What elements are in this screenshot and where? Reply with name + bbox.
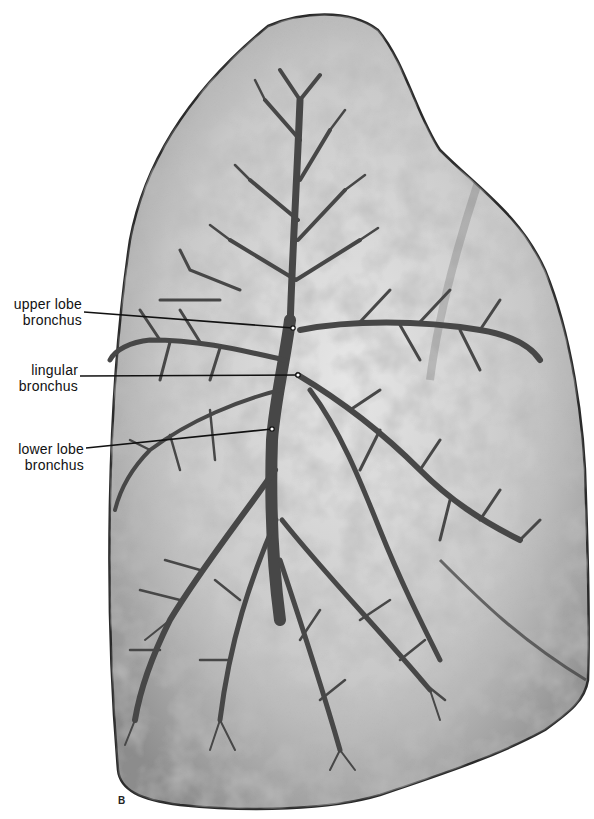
pointer-dot-lingular — [296, 373, 300, 377]
label-line: bronchus — [10, 457, 84, 473]
panel-letter: B — [118, 795, 125, 806]
leader-lingular — [80, 375, 298, 376]
label-line: bronchus — [10, 312, 82, 328]
label-lower-lobe-bronchus: lower lobe bronchus — [10, 441, 84, 473]
label-line: lingular — [10, 362, 78, 378]
label-line: lower lobe — [10, 441, 84, 457]
label-line: bronchus — [10, 378, 78, 394]
label-lingular-bronchus: lingular bronchus — [10, 362, 78, 394]
label-upper-lobe-bronchus: upper lobe bronchus — [10, 296, 82, 328]
lung-illustration — [0, 0, 594, 819]
pointer-dot-lower — [270, 427, 274, 431]
pointer-dot-upper — [291, 326, 295, 330]
label-line: upper lobe — [10, 296, 82, 312]
